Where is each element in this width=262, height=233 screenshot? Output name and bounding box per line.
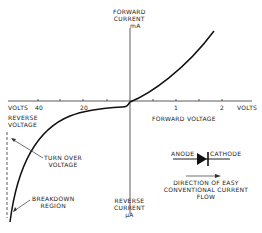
label-line: REVERSE [114, 197, 145, 204]
label-line: µA [114, 211, 145, 218]
label-line: REGION [32, 202, 75, 209]
label-line: FORWARD [113, 8, 146, 15]
tick-label-2: 2 [220, 104, 224, 111]
turn-over-arrow [12, 139, 43, 158]
breakdown-region-label: BREAKDOWN REGION [32, 195, 75, 209]
label-line: DIRECTION OF EASY [160, 179, 252, 186]
label-line: FLOW [160, 193, 252, 200]
label-line: VOLTAGE [44, 161, 82, 168]
cathode-label: CATHODE [210, 150, 241, 157]
forward-voltage-label: FORWARD VOLTAGE [152, 115, 216, 122]
arrowhead-icon [215, 174, 221, 178]
label-line: CURRENT [113, 15, 146, 22]
turn-over-voltage-label: TURN OVER VOLTAGE [44, 154, 82, 168]
tick-label-1: 1 [174, 104, 178, 111]
label-line: VOLTAGE [8, 121, 38, 128]
volts-right-label: VOLTS [237, 104, 257, 111]
label-line: CONVENTIONAL CURRENT [160, 186, 252, 193]
forward-current-label: FORWARD CURRENT mA [113, 8, 146, 29]
tick-label-40: 40 [35, 104, 43, 111]
arrowhead-icon [13, 207, 17, 212]
label-line: mA [113, 22, 146, 29]
label-line: BREAKDOWN [32, 195, 75, 202]
label-line: REVERSE [8, 114, 38, 121]
direction-label: DIRECTION OF EASY CONVENTIONAL CURRENT F… [160, 179, 252, 200]
anode-label: ANODE [171, 150, 194, 157]
volts-left-label: VOLTS [8, 104, 28, 111]
label-line: CURRENT [114, 204, 145, 211]
tick-label-20: 20 [80, 104, 88, 111]
forward-curve [130, 31, 214, 102]
reverse-current-label: REVERSE CURRENT µA [114, 197, 145, 218]
reverse-voltage-label: REVERSE VOLTAGE [8, 114, 38, 128]
label-line: TURN OVER [44, 154, 82, 161]
